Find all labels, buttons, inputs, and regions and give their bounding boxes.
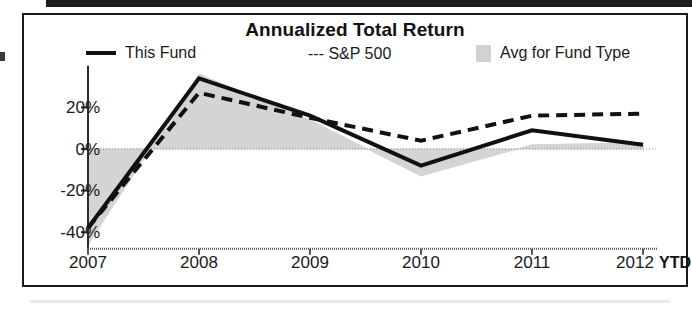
this-fund-line	[88, 78, 643, 228]
chart-plot-area	[24, 15, 690, 289]
y-tick-label-neg20: -20%	[34, 181, 100, 201]
x-axis-ytd-label: YTD	[659, 254, 691, 272]
chart-axes	[81, 66, 657, 255]
y-tick-label-0: 0%	[34, 140, 100, 160]
x-tick-label-2010: 2010	[381, 253, 461, 273]
scan-artifact-left-mark	[0, 52, 5, 61]
y-tick-label-20: 20%	[34, 98, 100, 118]
x-tick-label-2007: 2007	[48, 253, 128, 273]
scan-artifact-top-gap	[46, 7, 692, 10]
scan-artifact-top-bar	[46, 0, 692, 7]
x-tick-label-2011: 2011	[492, 253, 572, 273]
y-tick-label-neg40: -40%	[34, 223, 100, 243]
scan-artifact-bottom-edge	[30, 300, 670, 303]
x-tick-label-2008: 2008	[159, 253, 239, 273]
chart-panel: Annualized Total Return This Fund --- S&…	[22, 13, 688, 287]
x-tick-label-2009: 2009	[270, 253, 350, 273]
avg-fund-type-band	[88, 74, 643, 245]
